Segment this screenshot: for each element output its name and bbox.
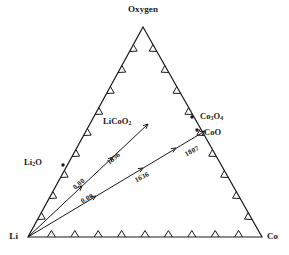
triangle-outline [28, 27, 262, 237]
vertex-label-li: Li [9, 232, 18, 241]
triangle-border [28, 27, 262, 237]
vertex-label-co: Co [267, 232, 278, 241]
bottom-edge-tick-7 [188, 231, 196, 238]
bottom-edge-tick-3 [94, 231, 102, 238]
bottom-edge-tick-2 [71, 231, 79, 238]
edge-tick-marks [38, 44, 252, 237]
vertex-label-oxygen: Oxygen [128, 5, 158, 14]
ternary-diagram-canvas [0, 0, 289, 255]
bottom-edge-tick-6 [164, 231, 172, 238]
phase-label-li2o: Li2O [24, 158, 42, 168]
bottom-edge-tick-1 [47, 231, 55, 238]
bottom-edge-tick-8 [211, 231, 219, 238]
bottom-edge-tick-5 [141, 231, 149, 238]
phase-label-coo: CoO [204, 128, 221, 137]
li-to-licoo2-ray [28, 124, 148, 237]
bottom-edge-tick-9 [235, 231, 243, 238]
ternary-phase-diagram: Oxygen Li Co Li2OLiCoO2Co3O4CoO0.0016360… [0, 0, 289, 255]
li2o-point [61, 163, 64, 166]
li-to-coo-ray [28, 131, 205, 237]
phase-label-co3o4: Co3O4 [200, 112, 223, 122]
phase-label-licoo2: LiCoO2 [103, 117, 132, 127]
coo-point [195, 128, 198, 131]
bottom-edge-tick-4 [118, 231, 126, 238]
tie-line-rays [28, 124, 205, 237]
co3o4-point [190, 115, 193, 118]
